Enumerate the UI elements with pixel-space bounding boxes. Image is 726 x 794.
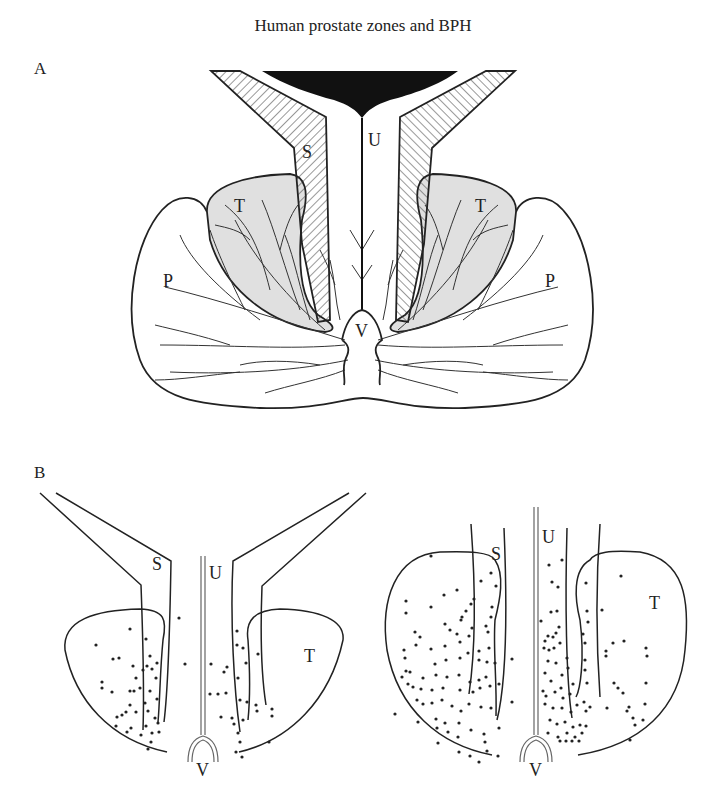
label-stroma: S bbox=[302, 142, 312, 162]
label-urethra: U bbox=[542, 527, 555, 547]
label-verumontanum: V bbox=[355, 321, 368, 341]
label-stroma: S bbox=[152, 554, 162, 574]
label-transition-left: T bbox=[234, 196, 245, 216]
stroma-left-outer bbox=[40, 493, 143, 730]
label-transition: T bbox=[649, 593, 660, 613]
stroma-right-outer bbox=[597, 524, 600, 697]
verumontanum bbox=[188, 736, 218, 762]
label-stroma: S bbox=[491, 544, 501, 564]
prostate-diagram: U S T T P P V bbox=[0, 0, 726, 794]
label-peripheral-left: P bbox=[163, 271, 173, 291]
transition-zone-left bbox=[385, 552, 500, 755]
label-urethra: U bbox=[209, 563, 222, 583]
stroma-right-outer bbox=[261, 493, 366, 705]
stroma-left-inner bbox=[56, 493, 171, 722]
panel-b-advanced: S U T V bbox=[385, 507, 686, 780]
label-verumontanum: V bbox=[196, 760, 209, 780]
label-peripheral-right: P bbox=[545, 271, 555, 291]
bph-nodules bbox=[393, 554, 648, 763]
transition-zone-right bbox=[576, 551, 687, 755]
stroma-left-outer bbox=[469, 524, 475, 694]
label-transition: T bbox=[304, 646, 315, 666]
urethra bbox=[201, 556, 205, 735]
panel-b-early: S U T V bbox=[40, 493, 366, 780]
transition-zone-left bbox=[65, 609, 167, 752]
verumontanum bbox=[520, 736, 552, 762]
label-urethra: U bbox=[368, 130, 381, 150]
panel-a: U S T T P P V bbox=[132, 71, 593, 408]
urethra bbox=[534, 507, 538, 735]
label-transition-right: T bbox=[475, 196, 486, 216]
transition-zone-right bbox=[239, 609, 343, 752]
label-verumontanum: V bbox=[529, 760, 542, 780]
stroma-right-inner bbox=[566, 528, 572, 718]
bph-nodules bbox=[94, 616, 273, 758]
